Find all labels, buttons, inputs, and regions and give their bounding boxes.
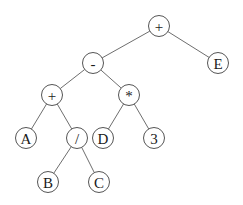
tree-edge (54, 147, 71, 173)
node-label: * (125, 88, 133, 104)
node-label: D (98, 131, 109, 147)
tree-edge (31, 104, 46, 129)
tree-edge (82, 147, 95, 172)
node-label: C (94, 175, 104, 191)
tree-node: - (83, 53, 104, 74)
node-label: E (213, 56, 222, 72)
tree-edge (134, 104, 148, 129)
node-label: A (21, 131, 32, 147)
tree-node: + (149, 16, 170, 37)
tree-edge (57, 104, 71, 129)
tree-node: / (67, 128, 88, 149)
tree-edge (102, 31, 150, 58)
node-label: + (48, 88, 56, 104)
tree-node: B (38, 172, 59, 193)
tree-edge (101, 70, 121, 88)
tree-edge (108, 104, 123, 129)
node-label: 3 (150, 131, 158, 147)
tree-node: + (42, 85, 63, 106)
tree-node: 3 (144, 128, 165, 149)
tree-node: C (89, 172, 110, 193)
node-label: + (155, 19, 163, 35)
tree-node: D (93, 128, 114, 149)
tree-edge (60, 69, 84, 88)
tree-edge (168, 32, 209, 58)
tree-node: E (208, 53, 229, 74)
node-label: B (43, 175, 53, 191)
expression-tree-diagram: +-E+*A/D3BC (0, 0, 243, 205)
tree-node: * (119, 85, 140, 106)
tree-node: A (16, 128, 37, 149)
node-label: - (91, 56, 96, 72)
tree-nodes: +-E+*A/D3BC (16, 16, 229, 193)
